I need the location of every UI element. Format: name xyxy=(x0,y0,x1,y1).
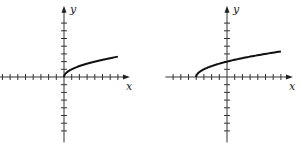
x-axis-label: x xyxy=(289,80,296,93)
graph-2-svg: xy xyxy=(150,0,300,148)
graph-sqrt-x-plus-4: xy xyxy=(150,0,300,148)
function-curve xyxy=(64,57,118,77)
x-axis-arrow-icon xyxy=(123,75,130,80)
y-axis-label: y xyxy=(232,3,240,16)
y-axis-arrow-icon xyxy=(62,6,67,13)
y-axis-arrow-icon xyxy=(225,6,230,13)
function-curve xyxy=(196,51,281,77)
y-axis-label: y xyxy=(69,3,77,16)
graph-1-svg: xy xyxy=(0,0,150,148)
x-axis-arrow-icon xyxy=(286,75,293,80)
x-axis-label: x xyxy=(126,80,133,93)
graph-sqrt-x: xy xyxy=(0,0,150,148)
